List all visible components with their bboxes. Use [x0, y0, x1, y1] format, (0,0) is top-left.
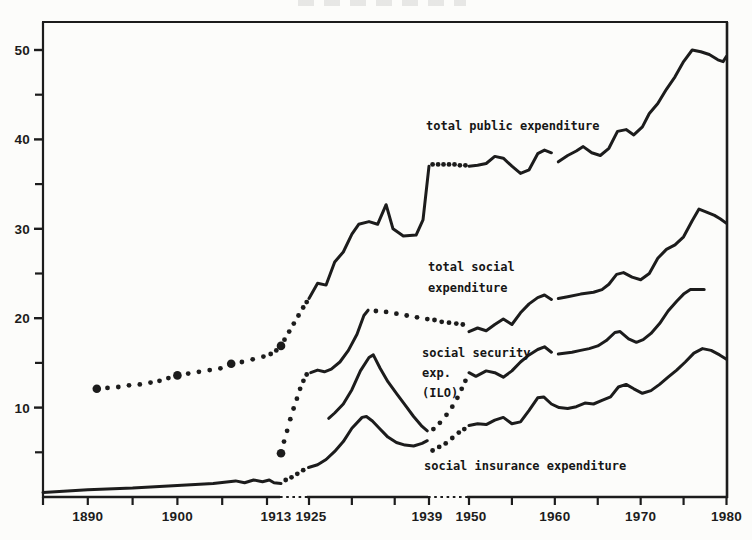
series-dot-total-public-expenditure	[166, 376, 171, 381]
series-dot-social-insurance-expenditure	[289, 475, 294, 480]
series-benchmark-dot-total-public-expenditure	[93, 385, 102, 394]
series-dot-total-public-expenditure	[296, 313, 301, 318]
series-dot-total-public-expenditure	[157, 378, 162, 383]
series-dot-total-social-expenditure	[298, 386, 303, 391]
series-dot-total-social-expenditure	[295, 396, 300, 401]
series-dot-total-social-expenditure	[432, 318, 437, 323]
series-dot-total-social-expenditure	[288, 417, 293, 422]
series-label-social-security-exp-ilo: (ILO)	[422, 386, 458, 400]
series-dot-total-public-expenditure	[458, 163, 463, 168]
y-tick-label: 40	[14, 132, 30, 147]
x-tick-label: 1960	[539, 509, 570, 524]
series-dot-social-security-exp-ilo	[431, 427, 436, 432]
series-dot-social-insurance-expenditure	[295, 471, 300, 476]
series-line-total-public-expenditure	[558, 50, 726, 162]
series-benchmark-dot-total-public-expenditure	[277, 342, 286, 351]
series-dot-social-insurance-expenditure	[430, 448, 435, 453]
x-tick-label: 1970	[625, 509, 656, 524]
series-label-social-security-exp-ilo: social security	[422, 346, 530, 360]
series-line-social-insurance-expenditure	[309, 417, 428, 468]
series-dot-social-insurance-expenditure	[443, 441, 448, 446]
series-line-social-security-exp-ilo	[329, 355, 428, 431]
series-dot-total-social-expenditure	[285, 428, 290, 433]
series-dot-social-insurance-expenditure	[437, 445, 442, 450]
y-tick-label: 50	[14, 43, 30, 58]
series-benchmark-dot-total-public-expenditure	[173, 371, 182, 380]
series-dot-total-public-expenditure	[291, 321, 296, 326]
series-dot-total-public-expenditure	[250, 357, 255, 362]
series-line-social-insurance-expenditure	[43, 480, 281, 493]
series-dot-social-insurance-expenditure	[456, 430, 461, 435]
series-dot-total-social-expenditure	[415, 315, 420, 320]
series-dot-total-public-expenditure	[197, 369, 202, 374]
series-dot-social-security-exp-ilo	[459, 386, 464, 391]
y-tick-label: 20	[14, 311, 30, 326]
series-dot-total-public-expenditure	[447, 162, 452, 167]
series-dot-total-public-expenditure	[441, 162, 446, 167]
series-dot-total-social-expenditure	[439, 319, 444, 324]
x-tick-label: 1980	[711, 509, 742, 524]
x-tick-label: 1925	[295, 509, 326, 524]
series-line-total-public-expenditure	[469, 150, 551, 173]
series-dot-total-public-expenditure	[463, 163, 468, 168]
series-dot-total-social-expenditure	[374, 309, 379, 314]
series-dot-total-public-expenditure	[240, 360, 245, 365]
series-benchmark-dot-total-public-expenditure	[227, 360, 236, 369]
series-dot-total-public-expenditure	[127, 383, 132, 388]
series-dot-total-public-expenditure	[207, 368, 212, 373]
series-dot-total-public-expenditure	[436, 162, 441, 167]
series-dot-total-public-expenditure	[261, 354, 266, 359]
series-dot-total-public-expenditure	[452, 162, 457, 167]
series-dot-social-insurance-expenditure	[301, 468, 306, 473]
series-line-social-security-exp-ilo	[558, 290, 704, 354]
series-dot-social-security-exp-ilo	[463, 378, 468, 383]
series-dot-total-social-expenditure	[454, 321, 459, 326]
series-label-total-public-expenditure: total public expenditure	[426, 119, 599, 133]
expenditure-chart-canvas: 1890190019131925193919501960197019801020…	[0, 0, 752, 540]
series-dot-total-social-expenditure	[460, 322, 465, 327]
x-tick-label: 1900	[162, 509, 193, 524]
y-tick-label: 10	[14, 401, 30, 416]
series-total-social-expenditure: total socialexpenditure	[277, 209, 727, 457]
series-line-social-insurance-expenditure	[469, 349, 727, 426]
series-dot-total-public-expenditure	[148, 380, 153, 385]
series-dot-total-public-expenditure	[116, 385, 121, 390]
scanned-figure-page: 1890190019131925193919501960197019801020…	[0, 0, 752, 540]
series-label-social-insurance-expenditure: social insurance expenditure	[424, 459, 626, 473]
series-dot-total-public-expenditure	[301, 305, 306, 310]
series-dot-total-social-expenditure	[301, 378, 306, 383]
series-dot-total-social-expenditure	[447, 320, 452, 325]
series-dot-total-social-expenditure	[404, 313, 409, 318]
series-dot-total-social-expenditure	[304, 372, 309, 377]
series-line-total-public-expenditure	[309, 166, 429, 298]
series-dot-social-insurance-expenditure	[462, 427, 467, 432]
series-dot-total-social-expenditure	[425, 317, 430, 322]
series-dot-total-public-expenditure	[137, 382, 142, 387]
series-dot-total-public-expenditure	[282, 337, 287, 342]
series-label-total-social-expenditure: total social	[428, 260, 515, 274]
series-dot-social-security-exp-ilo	[438, 420, 443, 425]
y-tick-label: 30	[14, 222, 30, 237]
series-label-social-security-exp-ilo: exp.	[422, 366, 451, 380]
series-dot-social-insurance-expenditure	[283, 478, 288, 483]
series-social-insurance-expenditure: social insurance expenditure	[43, 349, 727, 493]
series-dot-total-public-expenditure	[218, 366, 223, 371]
series-dot-total-public-expenditure	[186, 371, 191, 376]
series-dot-social-insurance-expenditure	[450, 436, 455, 441]
series-dot-total-social-expenditure	[282, 439, 287, 444]
series-dot-total-public-expenditure	[430, 162, 435, 167]
series-dot-total-social-expenditure	[394, 311, 399, 316]
series-dot-social-security-exp-ilo	[444, 412, 449, 417]
x-tick-label: 1890	[72, 509, 103, 524]
series-line-total-social-expenditure	[469, 295, 551, 332]
series-dot-total-public-expenditure	[287, 329, 292, 334]
x-tick-label: 1950	[455, 509, 486, 524]
series-dot-total-social-expenditure	[291, 406, 296, 411]
series-dot-social-security-exp-ilo	[450, 404, 455, 409]
series-benchmark-dot-total-social-expenditure	[277, 449, 286, 458]
series-dot-total-public-expenditure	[304, 300, 309, 305]
x-tick-label: 1913	[260, 509, 291, 524]
series-dot-total-social-expenditure	[384, 310, 389, 315]
series-label-total-social-expenditure: expenditure	[428, 281, 507, 295]
series-line-total-social-expenditure	[558, 209, 726, 298]
